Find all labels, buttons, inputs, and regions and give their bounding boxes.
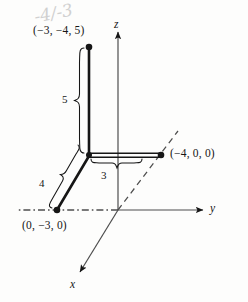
point-dot-right — [158, 152, 165, 159]
length-label-4: 4 — [39, 178, 45, 189]
point-label-top: (−3, −4, 5) — [33, 25, 85, 37]
point-label-bottom: (0, −3, 0) — [22, 220, 67, 232]
segment-horizontal-3 — [89, 153, 162, 157]
coordinate-axes-figure: -4/-3 (−3, −4, 5) (−4, 0, 0) (0, −3, 0) … — [0, 0, 248, 302]
axis-label-y: y — [210, 203, 215, 215]
point-dot-corner — [86, 152, 92, 158]
length-label-3: 3 — [101, 170, 107, 181]
axis-x-positive — [80, 210, 118, 272]
point-dot-bottom — [54, 207, 61, 214]
axis-label-z: z — [114, 19, 118, 31]
point-label-right: (−4, 0, 0) — [170, 148, 215, 160]
brace-5 — [75, 48, 85, 153]
length-label-5: 5 — [62, 94, 68, 105]
point-dot-top — [86, 44, 93, 51]
brace-3 — [91, 159, 142, 168]
axis-x-negative-dashed — [118, 131, 178, 210]
axis-label-x: x — [70, 279, 75, 291]
